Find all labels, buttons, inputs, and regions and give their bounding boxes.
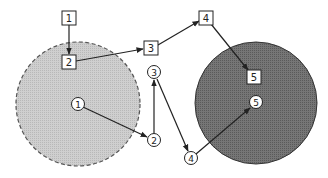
- circle-node-5: 5: [250, 96, 263, 109]
- square-node-3-label: 3: [148, 43, 154, 54]
- circle-node-3: 3: [148, 66, 161, 79]
- square-node-4: 4: [199, 11, 213, 25]
- circle-node-1: 1: [72, 98, 85, 111]
- circle-node-4: 4: [185, 152, 198, 165]
- square-node-2: 2: [62, 55, 76, 69]
- circle-node-3-label: 3: [151, 68, 157, 78]
- circle-node-5-label: 5: [253, 98, 259, 108]
- square-node-1: 1: [62, 11, 76, 25]
- arrow-square-3-to-4: [158, 21, 199, 45]
- circle-node-1-label: 1: [75, 100, 81, 110]
- circle-node-2: 2: [148, 134, 161, 147]
- path-diagram: 1 2 3 4 5 1 2 3 4 5: [0, 0, 328, 178]
- square-node-4-label: 4: [203, 13, 209, 24]
- square-node-5-label: 5: [251, 72, 257, 83]
- circle-node-2-label: 2: [151, 136, 157, 146]
- square-node-3: 3: [144, 41, 158, 55]
- square-node-5: 5: [247, 70, 261, 84]
- square-node-1-label: 1: [66, 13, 72, 24]
- square-node-2-label: 2: [66, 57, 72, 68]
- circle-node-4-label: 4: [188, 154, 194, 164]
- arrow-circle-3-to-4: [157, 79, 188, 151]
